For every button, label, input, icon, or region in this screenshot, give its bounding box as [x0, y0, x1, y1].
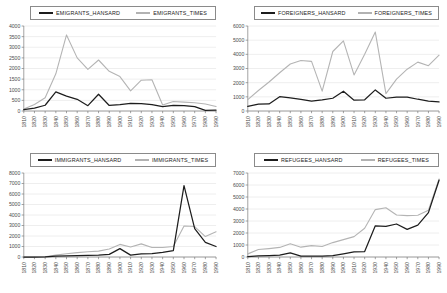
y-tick-label: 6000: [9, 191, 21, 197]
legend-label: FOREIGNERS_HANSARD: [278, 10, 346, 16]
refugees-panel: REFUGEES_HANSARD REFUGEES_TIMES 01000200…: [224, 147, 447, 293]
immigrants-panel: IMMIGRANTS_HANSARD IMMIGRANTS_TIMES 0100…: [0, 147, 224, 293]
y-tick-label: 1000: [233, 94, 245, 100]
immigrants-svg: 0100020003000400050006000700080001810182…: [0, 169, 222, 293]
x-tick-label: 1980: [202, 262, 208, 274]
y-tick-label: 2500: [9, 55, 21, 61]
line-swatch-icon: [264, 159, 278, 161]
x-tick-label: 1820: [31, 116, 37, 128]
x-tick-label: 1940: [383, 116, 389, 128]
y-tick-label: 4000: [233, 51, 245, 57]
line-swatch-icon: [358, 12, 372, 14]
emigrants-panel: EMIGRANTS_HANSARD EMIGRANTS_TIMES 050010…: [0, 0, 224, 147]
x-tick-label: 1980: [202, 116, 208, 128]
foreigners-panel: FOREIGNERS_HANSARD FOREIGNERS_TIMES 0100…: [224, 0, 447, 147]
x-tick-label: 1930: [372, 262, 378, 274]
plot-area-emigrants: 0500100015002000250030003500400018101820…: [0, 22, 222, 147]
line-swatch-icon: [135, 159, 149, 161]
x-tick-label: 1980: [425, 262, 431, 274]
x-tick-label: 1960: [404, 262, 410, 274]
x-tick-label: 1970: [191, 262, 197, 274]
y-tick-label: 0: [241, 254, 244, 260]
x-tick-label: 1820: [255, 262, 261, 274]
x-tick-label: 1840: [53, 116, 59, 128]
legend-entry-foreigners-times: FOREIGNERS_TIMES: [358, 10, 433, 16]
legend-refugees: REFUGEES_HANSARD REFUGEES_TIMES: [254, 153, 439, 167]
y-tick-label: 5000: [233, 194, 245, 200]
x-tick-label: 1930: [149, 262, 155, 274]
emigrants-svg: 0500100015002000250030003500400018101820…: [0, 22, 222, 147]
y-tick-label: 4000: [9, 23, 21, 29]
x-tick-label: 1910: [127, 262, 133, 274]
legend-emigrants: EMIGRANTS_HANSARD EMIGRANTS_TIMES: [30, 6, 216, 20]
y-tick-label: 4000: [233, 206, 245, 212]
series-line-emigrants_hansard: [24, 92, 216, 110]
x-tick-label: 1880: [95, 262, 101, 274]
y-tick-label: 0: [241, 108, 244, 114]
plot-area-immigrants: 0100020003000400050006000700080001810182…: [0, 169, 222, 293]
x-tick-label: 1960: [181, 116, 187, 128]
x-tick-label: 1900: [117, 262, 123, 274]
x-tick-label: 1970: [191, 116, 197, 128]
legend-label: REFUGEES_HANSARD: [281, 157, 342, 163]
x-tick-label: 1870: [85, 262, 91, 274]
line-swatch-icon: [361, 159, 375, 161]
x-tick-label: 1930: [149, 116, 155, 128]
legend-entry-immigrants-hansard: IMMIGRANTS_HANSARD: [38, 157, 122, 163]
legend-label: FOREIGNERS_TIMES: [375, 10, 433, 16]
series-line-refugees_times: [248, 179, 439, 254]
x-tick-label: 1890: [330, 116, 336, 128]
x-tick-label: 1990: [213, 262, 219, 274]
line-swatch-icon: [136, 12, 150, 14]
x-tick-label: 1880: [319, 116, 325, 128]
legend-immigrants: IMMIGRANTS_HANSARD IMMIGRANTS_TIMES: [30, 153, 216, 167]
y-tick-label: 1500: [9, 76, 21, 82]
x-tick-label: 1830: [266, 262, 272, 274]
legend-entry-refugees-hansard: REFUGEES_HANSARD: [264, 157, 342, 163]
x-tick-label: 1810: [245, 262, 251, 274]
y-tick-label: 3000: [9, 222, 21, 228]
x-tick-label: 1900: [340, 116, 346, 128]
x-tick-label: 1920: [361, 116, 367, 128]
y-tick-label: 5000: [9, 201, 21, 207]
foreigners-svg: 0100020003000400050006000181018201830184…: [224, 22, 445, 147]
plot-area-refugees: 0100020003000400050006000700018101820183…: [224, 169, 445, 293]
x-tick-label: 1840: [276, 262, 282, 274]
y-tick-label: 5000: [233, 37, 245, 43]
y-tick-label: 3000: [233, 218, 245, 224]
x-tick-label: 1810: [21, 262, 27, 274]
y-tick-label: 6000: [233, 23, 245, 29]
x-tick-label: 1840: [53, 262, 59, 274]
x-tick-label: 1850: [287, 262, 293, 274]
x-tick-label: 1910: [127, 116, 133, 128]
x-tick-label: 1920: [361, 262, 367, 274]
x-tick-label: 1880: [319, 262, 325, 274]
x-tick-label: 1870: [85, 116, 91, 128]
y-tick-label: 500: [12, 97, 21, 103]
legend-label: REFUGEES_TIMES: [378, 157, 429, 163]
x-tick-label: 1970: [415, 116, 421, 128]
legend-label: EMIGRANTS_HANSARD: [56, 10, 120, 16]
x-tick-label: 1950: [393, 116, 399, 128]
series-line-foreigners_hansard: [248, 90, 439, 106]
x-tick-label: 1820: [255, 116, 261, 128]
x-tick-label: 1900: [117, 116, 123, 128]
x-tick-label: 1990: [436, 262, 442, 274]
line-swatch-icon: [39, 12, 53, 14]
legend-entry-emigrants-times: EMIGRANTS_TIMES: [136, 10, 207, 16]
y-tick-label: 3000: [9, 44, 21, 50]
x-tick-label: 1860: [74, 262, 80, 274]
refugees-svg: 0100020003000400050006000700018101820183…: [224, 169, 445, 293]
x-tick-label: 1850: [287, 116, 293, 128]
x-tick-label: 1950: [393, 262, 399, 274]
legend-entry-emigrants-hansard: EMIGRANTS_HANSARD: [39, 10, 120, 16]
x-tick-label: 1880: [95, 116, 101, 128]
y-tick-label: 7000: [233, 170, 245, 176]
line-swatch-icon: [38, 159, 52, 161]
y-tick-label: 8000: [9, 170, 21, 176]
y-tick-label: 2000: [233, 230, 245, 236]
legend-entry-immigrants-times: IMMIGRANTS_TIMES: [135, 157, 208, 163]
x-tick-label: 1860: [298, 116, 304, 128]
x-tick-label: 1940: [159, 262, 165, 274]
x-tick-label: 1900: [340, 262, 346, 274]
